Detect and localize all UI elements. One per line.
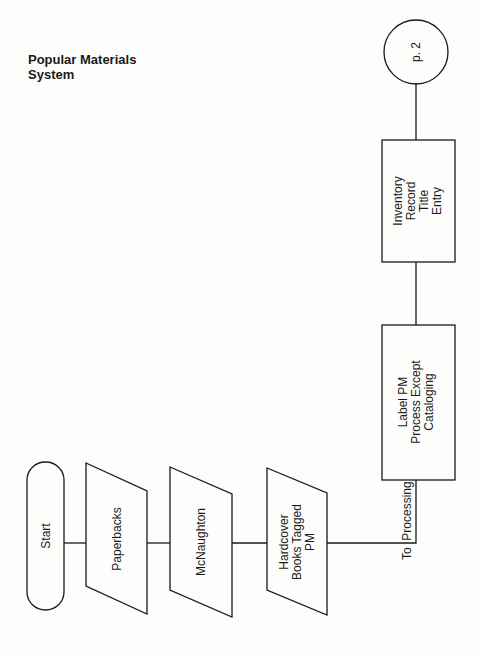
svg-text:Title: Title (417, 190, 431, 213)
start-label: Start (39, 523, 53, 549)
svg-text:Cataloging: Cataloging (422, 373, 436, 430)
paperbacks-label: Paperbacks (110, 507, 124, 570)
svg-text:Label PM: Label PM (396, 377, 410, 428)
to-processing-label: To Processing (400, 481, 414, 560)
svg-text:Inventory: Inventory (391, 176, 405, 225)
svg-text:Books Tagged: Books Tagged (290, 504, 304, 580)
svg-text:Entry: Entry (430, 187, 444, 215)
svg-text:Process Except: Process Except (409, 360, 423, 444)
svg-text:PM: PM (303, 533, 317, 551)
page-connector-label: p. 2 (409, 42, 423, 62)
flowchart: Start Paperbacks McNaughton Hardcover Bo… (0, 0, 483, 657)
svg-text:Record: Record (404, 182, 418, 221)
svg-text:Hardcover: Hardcover (277, 514, 291, 569)
mcnaughton-label: McNaughton (194, 508, 208, 576)
